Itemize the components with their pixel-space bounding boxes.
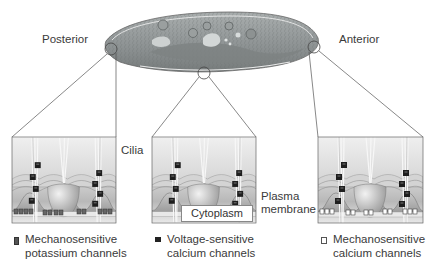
legend-label-line2: potassium channels — [25, 247, 127, 261]
legend-item-voltage-calcium: Voltage-sensitive calcium channels — [155, 233, 255, 260]
mechanosensitive-calcium-channel-icon — [321, 237, 327, 244]
anterior-panel — [318, 137, 423, 223]
legend-label-line2: calcium channels — [333, 247, 425, 261]
voltage-sensitive-calcium-channel-icon — [155, 237, 161, 242]
legend-label-line1: Voltage-sensitive — [167, 233, 255, 247]
posterior-panel — [12, 137, 116, 223]
legend-item-mechano-calcium: Mechanosensitive calcium channels — [321, 233, 425, 260]
legend-item-potassium: Mechanosensitive potassium channels — [14, 233, 127, 260]
legend-label-line1: Mechanosensitive — [333, 233, 425, 247]
plasma-membrane-label-line2: membrane — [261, 203, 316, 216]
plasma-membrane-label: Plasma membrane — [261, 190, 316, 216]
mechanosensitive-potassium-channel-icon — [14, 237, 19, 245]
plasma-membrane-label-line1: Plasma — [261, 190, 316, 203]
posterior-label: Posterior — [42, 33, 88, 46]
cytoplasm-label: Cytoplasm — [181, 205, 253, 222]
cilia-label: Cilia — [121, 144, 143, 157]
legend-label-line2: calcium channels — [167, 247, 255, 261]
anterior-label: Anterior — [339, 33, 379, 46]
legend-label-line1: Mechanosensitive — [25, 233, 127, 247]
paramecium-cell — [105, 12, 318, 72]
